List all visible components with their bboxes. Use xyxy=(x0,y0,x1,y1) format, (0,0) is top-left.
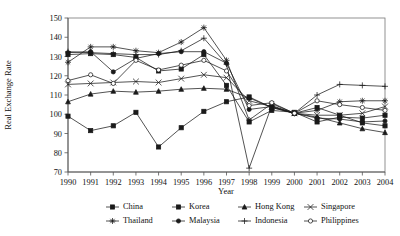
legend-item-hong-kong[interactable]: Hong Kong xyxy=(238,202,295,211)
legend-marker-star-icon xyxy=(110,218,116,224)
x-tick-label: 1999 xyxy=(263,178,280,187)
x-tick-label: 1994 xyxy=(150,178,167,187)
plot-frame xyxy=(68,18,385,172)
legend-item-indonesia[interactable]: Indonesia xyxy=(238,216,288,225)
legend-item-china[interactable]: China xyxy=(106,202,143,211)
legend-label: Philippines xyxy=(321,216,359,225)
legend-marker-filled-circle-icon xyxy=(176,219,180,223)
x-axis-title: Year xyxy=(218,186,234,196)
legend-label: Hong Kong xyxy=(255,202,295,211)
real-exchange-rate-line-chart: 708090100110120130140150 199019911992199… xyxy=(0,0,400,236)
chart-container: 708090100110120130140150 199019911992199… xyxy=(0,0,400,236)
y-tick-label: 150 xyxy=(50,14,62,23)
x-tick-label: 1993 xyxy=(128,178,145,187)
x-tick-label: 1992 xyxy=(105,178,122,187)
x-tick-label: 2000 xyxy=(286,178,303,187)
series-singapore xyxy=(65,72,388,118)
legend-marker-plus-icon xyxy=(242,218,248,224)
legend-label: Thailand xyxy=(123,216,154,225)
y-axis-title: Real Exchange Rate xyxy=(3,60,13,130)
legend-item-thailand[interactable]: Thailand xyxy=(106,216,154,225)
legend-item-malaysia[interactable]: Malaysia xyxy=(172,216,220,225)
x-tick-label: 2001 xyxy=(309,178,326,187)
legend-label: Indonesia xyxy=(255,216,288,225)
series-markers xyxy=(65,72,388,118)
x-tick-label: 1996 xyxy=(196,178,213,187)
legend-label: China xyxy=(123,202,143,211)
y-tick-label: 100 xyxy=(50,110,62,119)
x-tick-label: 2002 xyxy=(331,178,348,187)
legend-marker-open-circle-icon xyxy=(308,219,312,223)
legend-label: Singapore xyxy=(321,202,355,211)
y-tick-label: 140 xyxy=(50,33,62,42)
x-tick-label: 1990 xyxy=(60,178,77,187)
legend-item-philippines[interactable]: Philippines xyxy=(304,216,359,225)
x-tick-label: 1998 xyxy=(241,178,258,187)
legend-label: Korea xyxy=(189,202,210,211)
x-tick-label: 1995 xyxy=(173,178,190,187)
legend-marker-filled-square-icon xyxy=(176,205,180,209)
y-tick-label: 120 xyxy=(50,72,62,81)
series-layer xyxy=(65,25,388,172)
y-tick-label: 130 xyxy=(50,53,62,62)
x-tick-label: 1991 xyxy=(82,178,99,187)
legend-marker-filled-square-icon xyxy=(110,205,114,209)
legend-item-korea[interactable]: Korea xyxy=(172,202,210,211)
x-tick-label: 2003 xyxy=(354,178,371,187)
x-axis-ticks: 1990199119921993199419951996199719981999… xyxy=(60,172,394,187)
y-tick-label: 70 xyxy=(54,168,62,177)
legend-item-singapore[interactable]: Singapore xyxy=(304,202,355,211)
chart-legend: ChinaKoreaHong KongSingaporeThailandMala… xyxy=(106,202,359,225)
y-tick-label: 110 xyxy=(50,91,62,100)
y-tick-label: 90 xyxy=(54,130,62,139)
legend-label: Malaysia xyxy=(189,216,220,225)
y-tick-label: 80 xyxy=(54,149,62,158)
x-tick-label: 2004 xyxy=(377,178,394,187)
y-axis-ticks: 708090100110120130140150 xyxy=(50,14,68,177)
